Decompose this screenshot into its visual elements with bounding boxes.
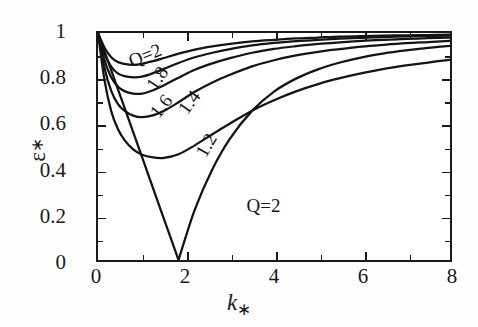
x-minor-tick-top (410, 33, 412, 38)
x-major-tick (365, 252, 367, 260)
y-tick-label: 0.6 (6, 113, 66, 134)
y-major-tick (98, 125, 106, 127)
x-tick-label: 2 (180, 266, 191, 287)
x-tick-label: 0 (91, 266, 102, 287)
x-major-tick (187, 252, 189, 260)
y-tick-label: 0 (6, 252, 66, 273)
y-tick-label: 1 (6, 21, 66, 42)
y-minor-tick (98, 149, 103, 151)
figure-canvas: ε∗ k∗ 02468 00.20.40.60.81 Q=21.81.61.41… (0, 0, 478, 327)
y-tick-label: 0.4 (6, 159, 66, 180)
y-major-tick-right (442, 218, 450, 220)
y-tick-label: 0.8 (6, 67, 66, 88)
y-major-tick (98, 172, 106, 174)
plot-area: Q=21.81.61.41.2Q=2 (96, 31, 452, 262)
x-axis-title-subscript: ∗ (237, 300, 251, 319)
y-minor-tick-right (445, 149, 450, 151)
y-minor-tick (98, 195, 103, 197)
y-minor-tick (98, 241, 103, 243)
y-minor-tick-right (445, 241, 450, 243)
y-tick-label: 0.2 (6, 205, 66, 226)
y-major-tick (98, 79, 106, 81)
x-tick-label: 6 (358, 266, 369, 287)
y-minor-tick (98, 56, 103, 58)
x-major-tick-top (276, 33, 278, 41)
curve-6 (179, 46, 450, 260)
x-tick-label: 8 (447, 266, 458, 287)
y-major-tick-right (442, 79, 450, 81)
y-minor-tick-right (445, 102, 450, 104)
x-minor-tick-top (232, 33, 234, 38)
y-minor-tick-right (445, 195, 450, 197)
y-minor-tick-right (445, 56, 450, 58)
x-minor-tick (321, 255, 323, 260)
y-minor-tick (98, 102, 103, 104)
x-minor-tick-top (143, 33, 145, 38)
x-minor-tick (232, 255, 234, 260)
x-major-tick-top (187, 33, 189, 41)
x-minor-tick-top (321, 33, 323, 38)
y-axis-title-subscript: ∗ (28, 138, 48, 152)
x-major-tick-top (365, 33, 367, 41)
x-tick-label: 4 (269, 266, 280, 287)
x-major-tick (276, 252, 278, 260)
y-major-tick-right (442, 125, 450, 127)
y-major-tick-right (442, 172, 450, 174)
y-major-tick (98, 218, 106, 220)
x-axis-title: k∗ (0, 290, 478, 320)
x-minor-tick (143, 255, 145, 260)
x-axis-title-symbol: k (227, 290, 237, 315)
x-minor-tick (410, 255, 412, 260)
curve-label: Q=2 (247, 196, 281, 215)
